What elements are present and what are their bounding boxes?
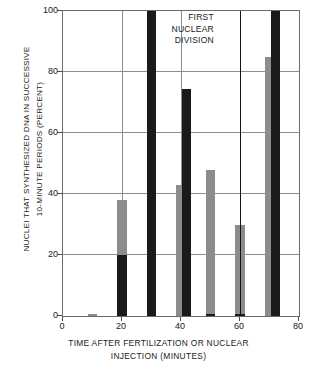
y-tick-label-100: 100 <box>32 6 58 15</box>
y-tick-label-0: 0 <box>32 311 58 320</box>
plot-area <box>62 10 300 317</box>
y-tick-mark-0 <box>57 315 62 316</box>
x-tick-label-80: 80 <box>283 321 313 331</box>
y-tick-label-60: 60 <box>32 128 58 137</box>
y-tick-label-40: 40 <box>32 189 58 198</box>
y-tick-mark-80 <box>57 71 62 72</box>
x-tick-mark-40 <box>180 317 181 321</box>
bar-black-30 <box>147 11 156 316</box>
annotation-line-3: DIVISION <box>150 35 214 47</box>
y-tick-mark-60 <box>57 132 62 133</box>
chart-figure: NUCLEI THAT SYNTHESIZED DNA IN SUCCESSIV… <box>0 0 317 376</box>
x-axis-title-line-2: INJECTION (MINUTES) <box>0 350 317 363</box>
x-tick-mark-80 <box>298 317 299 321</box>
first-nuclear-division-line <box>240 11 241 316</box>
bar-black-72 <box>271 11 280 316</box>
annotation-first-nuclear-division: FIRST NUCLEAR DIVISION <box>150 12 214 47</box>
bar-gray-50 <box>206 170 215 316</box>
annotation-line-2: NUCLEAR <box>150 24 214 36</box>
y-tick-mark-40 <box>57 193 62 194</box>
x-tick-mark-20 <box>121 317 122 321</box>
y-tick-label-20: 20 <box>32 250 58 259</box>
x-tick-mark-60 <box>239 317 240 321</box>
y-axis-tick-labels: 020406080100 <box>28 0 58 376</box>
bar-black-50 <box>206 314 215 316</box>
bar-gray-10 <box>88 314 97 316</box>
bar-black-42 <box>182 89 191 316</box>
x-tick-label-40: 40 <box>165 321 195 331</box>
y-tick-mark-100 <box>57 10 62 11</box>
y-tick-mark-20 <box>57 254 62 255</box>
x-axis-tick-labels: 020406080 <box>0 321 317 335</box>
bar-black-20 <box>117 255 126 316</box>
x-tick-label-60: 60 <box>224 321 254 331</box>
y-tick-label-80: 80 <box>32 67 58 76</box>
x-tick-mark-0 <box>62 317 63 321</box>
x-tick-label-20: 20 <box>106 321 136 331</box>
x-axis-title-line-1: TIME AFTER FERTILIZATION OR NUCLEAR <box>0 337 317 350</box>
x-axis-title: TIME AFTER FERTILIZATION OR NUCLEAR INJE… <box>0 337 317 362</box>
annotation-line-1: FIRST <box>150 12 214 24</box>
x-tick-label-0: 0 <box>47 321 77 331</box>
